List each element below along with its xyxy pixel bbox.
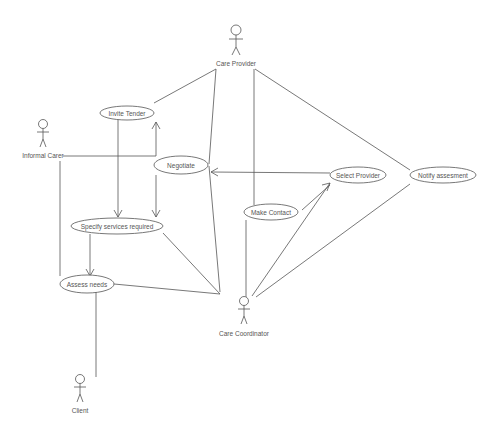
use-case-make-contact[interactable]: Make Contact <box>244 204 298 220</box>
actor-label: Care Coordinator <box>219 330 270 337</box>
use-case-negotiate[interactable]: Negotiate <box>154 156 208 174</box>
assoc-provider-notify <box>255 69 410 170</box>
actor-label: Client <box>72 407 89 414</box>
use-case-diagram: Invite Tender Negotiate Specify services… <box>0 0 502 437</box>
actor-care-coordinator[interactable]: Care Coordinator <box>219 297 270 338</box>
use-case-specify-services[interactable]: Specify services required <box>71 218 163 234</box>
assoc-specify-coordinator <box>163 233 220 294</box>
use-case-label: Notify assesment <box>418 172 468 180</box>
use-case-label: Specify services required <box>81 223 154 231</box>
dep-select-negotiate <box>211 172 330 173</box>
use-case-select-provider[interactable]: Select Provider <box>330 167 386 183</box>
use-case-assess-needs[interactable]: Assess needs <box>60 275 114 293</box>
assoc-provider-coordinator <box>209 69 216 164</box>
assoc-provider-negotiate-down <box>209 166 220 292</box>
actor-client[interactable]: Client <box>72 375 89 415</box>
use-case-label: Select Provider <box>336 172 381 179</box>
actor-care-provider[interactable]: Care Provider <box>216 25 257 67</box>
stick-figure-icon <box>238 297 250 325</box>
actor-label: Informal Carer <box>22 152 64 159</box>
use-case-label: Assess needs <box>67 281 108 288</box>
assoc-coordinator-notify <box>256 184 410 297</box>
use-case-notify-assessment[interactable]: Notify assesment <box>410 167 476 183</box>
use-case-label: Invite Tender <box>108 110 146 117</box>
stick-figure-icon <box>37 120 49 148</box>
assoc-coordinator-select <box>252 183 330 296</box>
actor-informal-carer[interactable]: Informal Carer <box>22 120 64 160</box>
actor-label: Care Provider <box>216 60 257 67</box>
assoc-provider-invite <box>154 69 216 103</box>
use-case-invite-tender[interactable]: Invite Tender <box>100 106 154 120</box>
stick-figure-icon <box>74 375 86 403</box>
use-case-label: Negotiate <box>167 162 195 170</box>
stick-figure-icon <box>229 25 243 55</box>
use-case-label: Make Contact <box>251 209 291 216</box>
assoc-assess-coordinator <box>114 284 220 294</box>
assoc-carer-invite <box>63 122 156 156</box>
